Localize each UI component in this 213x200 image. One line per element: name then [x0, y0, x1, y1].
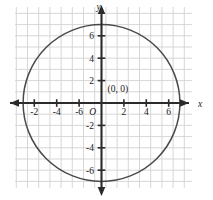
- x-tick-label-6: 6: [166, 107, 171, 117]
- y-axis-label: y: [95, 2, 101, 12]
- y-tick-label--4: -4: [86, 143, 94, 153]
- y-tick-label--6: -6: [86, 166, 94, 176]
- origin-label: O: [89, 107, 96, 117]
- x-axis-arrow-left: [10, 99, 19, 107]
- grid-lines: [15, 7, 192, 188]
- y-tick-label-2: 2: [89, 76, 94, 86]
- center-point-label: (0, 0): [108, 84, 129, 95]
- graph-canvas: -6 -4 -2 2 4 6 2 4 6 -2 -4 -6 O x y (0, …: [0, 0, 213, 200]
- x-axis-label: x: [197, 99, 203, 109]
- y-tick-label--2: -2: [86, 121, 94, 131]
- coordinate-plane-figure: -6 -4 -2 2 4 6 2 4 6 -2 -4 -6 O x y (0, …: [0, 0, 213, 200]
- y-tick-label-4: 4: [89, 54, 94, 64]
- x-tick-label-4: 4: [144, 107, 149, 117]
- y-tick-label-6: 6: [89, 31, 94, 41]
- y-axis-arrow-down: [98, 187, 106, 196]
- x-tick-label--4: -4: [53, 107, 61, 117]
- x-tick-label-2: 2: [122, 107, 127, 117]
- x-tick-label--6: -6: [75, 107, 83, 117]
- x-tick-label--2: -2: [30, 107, 38, 117]
